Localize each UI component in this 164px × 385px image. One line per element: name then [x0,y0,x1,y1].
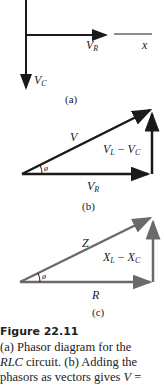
r-label: R [92,288,99,303]
xl-minus-xc-label: XL − XC [103,250,140,265]
angle-arc [38,273,40,282]
angle-arc [40,165,42,174]
z-label: Z [82,236,89,251]
vr-label: VR [86,38,98,53]
vl-minus-vc-label: VL − VC [103,142,140,157]
figure-title: Figure 22.11 [0,325,79,338]
panel-a-label: (a) [65,93,77,105]
phi-label: ø [44,164,48,173]
v-label: V [70,130,77,145]
panel-b-label: (b) [82,200,95,212]
phi-label: ø [42,272,46,281]
vr-base-label: VR [87,179,99,194]
vc-label: VC [34,73,47,88]
x-axis-label: x [142,38,147,53]
figure-caption: (a) Phasor diagram for the RLC circuit. … [0,340,164,385]
panel-c-label: (c) [92,306,104,318]
